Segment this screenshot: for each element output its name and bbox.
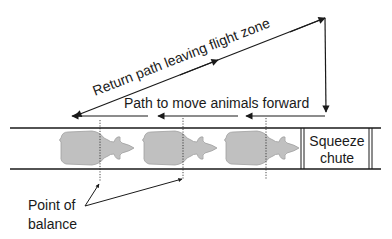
point-of-balance-pointers — [85, 179, 182, 206]
return-path-label: Return path leaving flight zone — [90, 15, 272, 99]
forward-path-label: Path to move animals forward — [124, 95, 309, 111]
point-of-balance-label: Point of — [28, 197, 76, 213]
animal-2 — [143, 131, 218, 165]
squeeze-chute-label-2: chute — [320, 150, 354, 166]
return-vertical-arrow — [325, 18, 326, 112]
point-of-balance-label-2: balance — [28, 216, 77, 232]
animal-1 — [60, 131, 135, 165]
handler-movement-diagram: Return path leaving flight zone Path to … — [0, 0, 392, 239]
squeeze-chute: Squeeze chute — [301, 128, 372, 169]
animal-3 — [225, 131, 300, 165]
squeeze-chute-label: Squeeze — [309, 133, 364, 149]
